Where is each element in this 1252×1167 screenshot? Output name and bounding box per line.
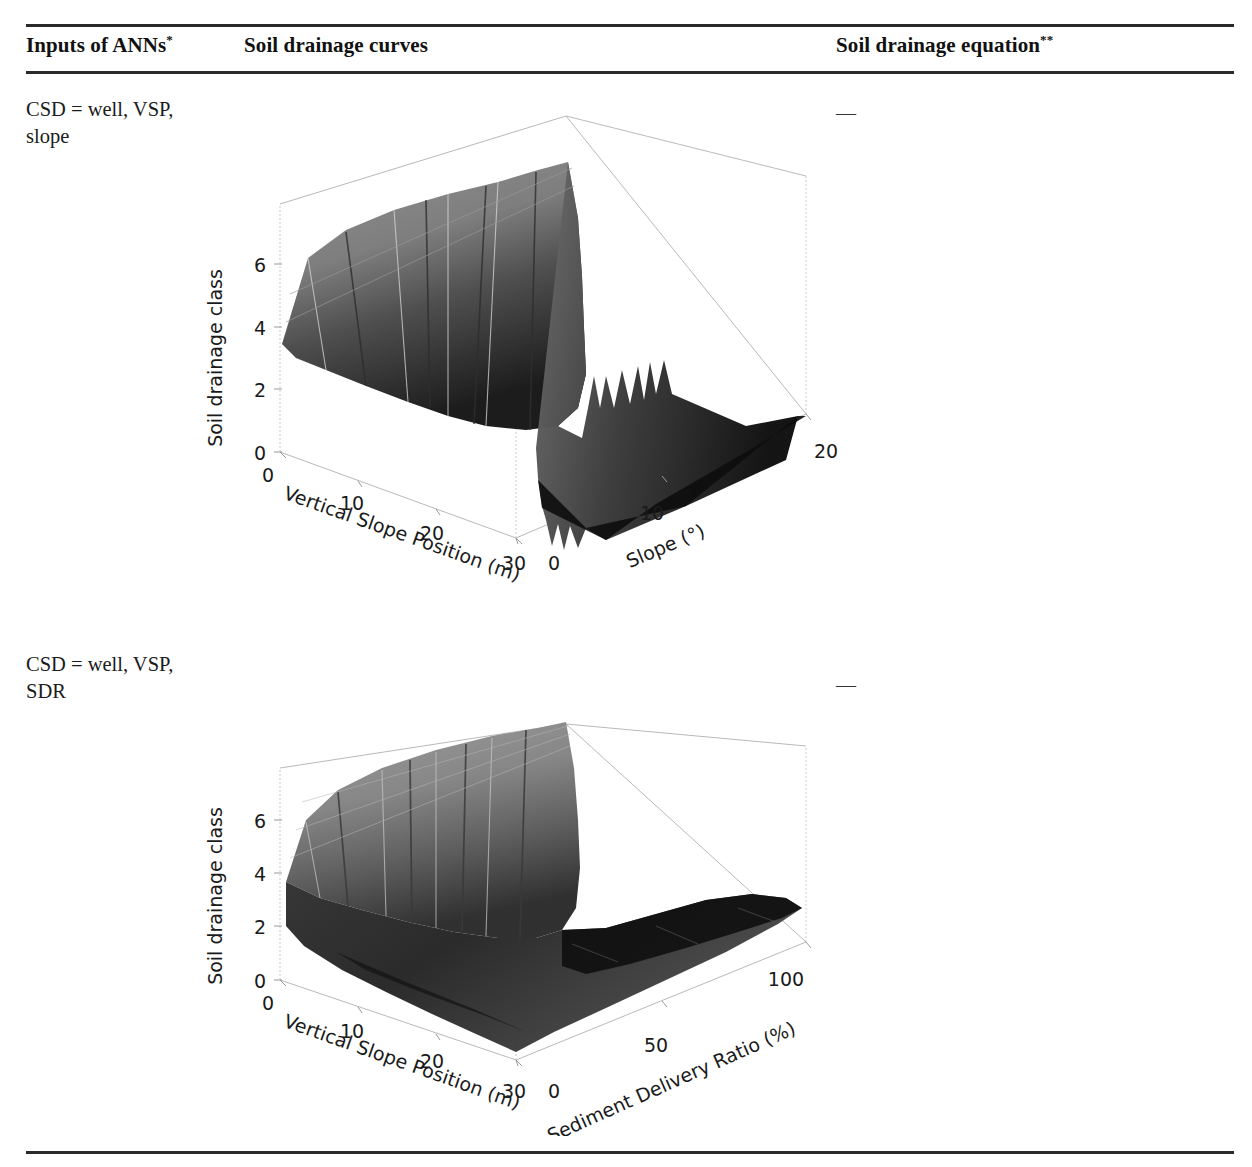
plot2-z-tick-4: 4	[254, 863, 266, 885]
plot1-y-tick-20: 20	[814, 440, 838, 462]
plot1-y-tick-0: 0	[548, 552, 560, 574]
column-header-inputs-label: Inputs of ANNs	[26, 33, 166, 57]
column-header-equation-label: Soil drainage equation	[836, 33, 1040, 57]
table-row: CSD = well, VSP, SDR	[26, 651, 231, 705]
plot1-x-axis: 0 10 20 30 Vertical Slope Position (m)	[262, 452, 526, 585]
plot2-x-tick-0: 0	[262, 992, 274, 1014]
column-header-equation: Soil drainage equation**	[836, 33, 1053, 58]
plot2-y-tick-50: 50	[644, 1034, 668, 1056]
column-header-curves-label: Soil drainage curves	[244, 33, 428, 57]
soil-drainage-surface-chart-1: 0 2 4 6 Soil drainage class 0 10 20 30 V…	[186, 108, 846, 588]
row2-inputs-line1: CSD = well, VSP,	[26, 651, 231, 678]
row2-inputs-line2: SDR	[26, 678, 231, 705]
plot2-z-tick-0: 0	[254, 970, 266, 992]
plot2-z-axis-title: Soil drainage class	[204, 807, 226, 985]
surface-plot-1-svg: 0 2 4 6 Soil drainage class 0 10 20 30 V…	[186, 108, 846, 588]
table-top-rule	[26, 24, 1234, 27]
plot1-z-tick-4: 4	[254, 317, 266, 339]
plot2-surface	[286, 722, 802, 1052]
table-page: Inputs of ANNs* Soil drainage curves Soi…	[0, 0, 1252, 1167]
column-header-equation-superscript: **	[1040, 32, 1053, 47]
table-header-row: Inputs of ANNs* Soil drainage curves Soi…	[0, 33, 1252, 69]
table-header-rule	[26, 71, 1234, 74]
plot1-x-tick-0: 0	[262, 464, 274, 486]
plot1-y-tick-10: 10	[640, 502, 664, 524]
surface-plot-2-svg: 0 2 4 6 Soil drainage class 0 10 20 30 V…	[186, 716, 846, 1136]
plot2-y-tick-100: 100	[768, 968, 804, 990]
plot1-z-tick-2: 2	[254, 379, 266, 401]
plot2-z-tick-2: 2	[254, 916, 266, 938]
row2-equation: —	[836, 675, 856, 695]
plot1-z-tick-6: 6	[254, 254, 266, 276]
column-header-curves: Soil drainage curves	[244, 33, 428, 58]
plot1-z-axis: 0 2 4 6 Soil drainage class	[204, 254, 282, 464]
plot2-z-tick-6: 6	[254, 810, 266, 832]
column-header-inputs: Inputs of ANNs*	[26, 33, 173, 58]
plot2-y-tick-0: 0	[548, 1080, 560, 1102]
plot2-y-axis-title: Sediment Delivery Ratio (%)	[544, 1017, 799, 1136]
soil-drainage-surface-chart-2: 0 2 4 6 Soil drainage class 0 10 20 30 V…	[186, 716, 846, 1136]
plot1-z-axis-title: Soil drainage class	[204, 269, 226, 447]
plot2-z-axis: 0 2 4 6 Soil drainage class	[204, 807, 282, 992]
column-header-inputs-superscript: *	[166, 32, 173, 47]
table-bottom-rule	[26, 1151, 1234, 1154]
plot1-z-tick-0: 0	[254, 442, 266, 464]
